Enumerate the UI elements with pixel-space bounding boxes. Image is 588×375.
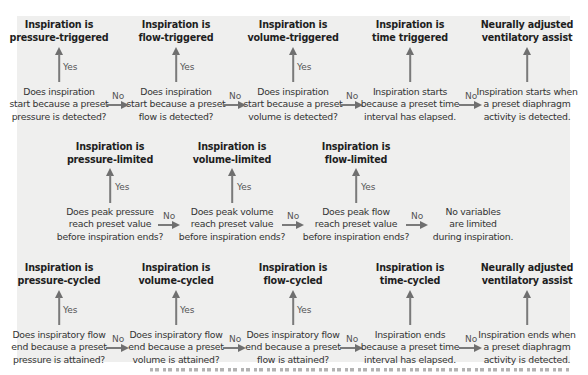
question-line: Inspiration starts when [476, 86, 577, 98]
question-line: activity is detected. [476, 111, 577, 123]
question-line: during inspiration. [433, 231, 513, 243]
outcome-flow-limited: Inspiration is flow-limited [322, 141, 390, 166]
outcome-line: Inspiration is [193, 141, 271, 154]
question-line: before inspiration ends? [179, 231, 285, 243]
outcome-line: Inspiration is [18, 262, 101, 275]
outcome-line: Inspiration is [247, 19, 338, 32]
arrow-up-line [292, 54, 294, 82]
arrow-up-line [231, 175, 233, 203]
question-line: Inspiration ends [361, 329, 460, 341]
outcome-line: flow-triggered [138, 32, 213, 45]
statement-nava-cycle: Inspiration ends when a preset diaphragm… [478, 329, 575, 366]
outcome-line: Inspiration is [376, 262, 444, 275]
no-label: No [287, 211, 299, 221]
outcome-time-triggered: Inspiration is time triggered [372, 19, 448, 44]
arrow-up-line [355, 175, 357, 203]
outcome-flow-cycled: Inspiration is flow-cycled [259, 262, 327, 287]
outcome-pressure-triggered: Inspiration is pressure-triggered [10, 19, 109, 44]
question-line: Does inspiratory flow [11, 329, 106, 341]
question-line: pressure is attained? [11, 354, 106, 366]
no-label: No [229, 334, 241, 344]
question-volume-trigger: Does inspiration start because a preset … [243, 86, 342, 123]
outcome-line: time-cycled [376, 275, 444, 288]
question-line: Does peak volume [179, 206, 285, 218]
outcome-line: Inspiration is [259, 262, 327, 275]
arrow-right-line [223, 104, 238, 106]
outcome-line: Neurally adjusted [481, 262, 573, 275]
question-volume-limit: Does peak volume reach preset value befo… [179, 206, 285, 243]
outcome-line: pressure-limited [67, 154, 153, 167]
question-line: because a preset time [361, 98, 460, 110]
no-label: No [163, 211, 175, 221]
outcome-line: pressure-cycled [18, 275, 101, 288]
question-line: No variables [433, 206, 513, 218]
arrow-up-line [58, 54, 60, 82]
outcome-line: pressure-triggered [10, 32, 109, 45]
arrow-right-line [106, 104, 121, 106]
arrow-right-line [158, 224, 172, 226]
no-label: No [465, 334, 477, 344]
no-label: No [346, 91, 358, 101]
question-line: start because a preset [243, 98, 342, 110]
yes-label: Yes [180, 305, 195, 315]
yes-label: Yes [297, 305, 312, 315]
question-pressure-trigger: Does inspiration start because a preset … [9, 86, 108, 123]
arrow-right-line [106, 347, 121, 349]
statement-nava-trigger: Inspiration starts when a preset diaphra… [476, 86, 577, 123]
outcome-line: Inspiration is [372, 19, 448, 32]
arrow-right-line [340, 104, 355, 106]
question-line: activity is detected. [478, 354, 575, 366]
question-line: interval has elapsed. [361, 354, 460, 366]
statement-time-cycle: Inspiration ends because a preset time i… [361, 329, 460, 366]
no-label: No [411, 211, 423, 221]
question-line: reach preset value [303, 218, 409, 230]
arrow-up-line [409, 54, 411, 82]
question-line: Does peak pressure [57, 206, 163, 218]
question-line: pressure is detected? [9, 111, 108, 123]
question-line: start because a preset [9, 98, 108, 110]
question-line: end because a preset [245, 341, 340, 353]
outcome-nava-cycle: Neurally adjusted ventilatory assist [481, 262, 573, 287]
yes-label: Yes [63, 62, 78, 72]
arrow-up-line [526, 297, 528, 325]
outcome-line: ventilatory assist [481, 275, 573, 288]
yes-label: Yes [180, 62, 195, 72]
outcome-volume-limited: Inspiration is volume-limited [193, 141, 271, 166]
outcome-line: ventilatory assist [481, 32, 573, 45]
outcome-volume-triggered: Inspiration is volume-triggered [247, 19, 338, 44]
yes-label: Yes [115, 182, 130, 192]
outcome-line: Inspiration is [322, 141, 390, 154]
arrow-up-line [109, 175, 111, 203]
arrow-right-line [459, 104, 474, 106]
question-line: before inspiration ends? [57, 231, 163, 243]
question-line: flow is detected? [126, 111, 225, 123]
question-line: Inspiration ends when [478, 329, 575, 341]
question-line: a preset diaphragm [478, 341, 575, 353]
outcome-volume-cycled: Inspiration is volume-cycled [138, 262, 213, 287]
outcome-line: volume-cycled [138, 275, 213, 288]
question-pressure-cycle: Does inspiratory flow end because a pres… [11, 329, 106, 366]
arrow-up-line [292, 297, 294, 325]
statement-no-limit: No variables are limited during inspirat… [433, 206, 513, 243]
outcome-pressure-limited: Inspiration is pressure-limited [67, 141, 153, 166]
arrow-up-line [409, 297, 411, 325]
no-label: No [112, 91, 124, 101]
arrow-up-line [175, 297, 177, 325]
outcome-time-cycled: Inspiration is time-cycled [376, 262, 444, 287]
outcome-line: Neurally adjusted [481, 19, 573, 32]
outcome-pressure-cycled: Inspiration is pressure-cycled [18, 262, 101, 287]
outcome-line: Inspiration is [67, 141, 153, 154]
question-line: a preset diaphragm [476, 98, 577, 110]
outcome-line: flow-cycled [259, 275, 327, 288]
outcome-line: Inspiration is [138, 262, 213, 275]
outcome-flow-triggered: Inspiration is flow-triggered [138, 19, 213, 44]
question-line: end because a preset [128, 341, 223, 353]
yes-label: Yes [237, 182, 252, 192]
question-line: reach preset value [179, 218, 285, 230]
yes-label: Yes [361, 182, 376, 192]
question-line: Does inspiration [9, 86, 108, 98]
arrow-up-line [175, 54, 177, 82]
question-flow-trigger: Does inspiration start because a preset … [126, 86, 225, 123]
outcome-nava-trigger: Neurally adjusted ventilatory assist [481, 19, 573, 44]
question-line: because a preset time [361, 341, 460, 353]
